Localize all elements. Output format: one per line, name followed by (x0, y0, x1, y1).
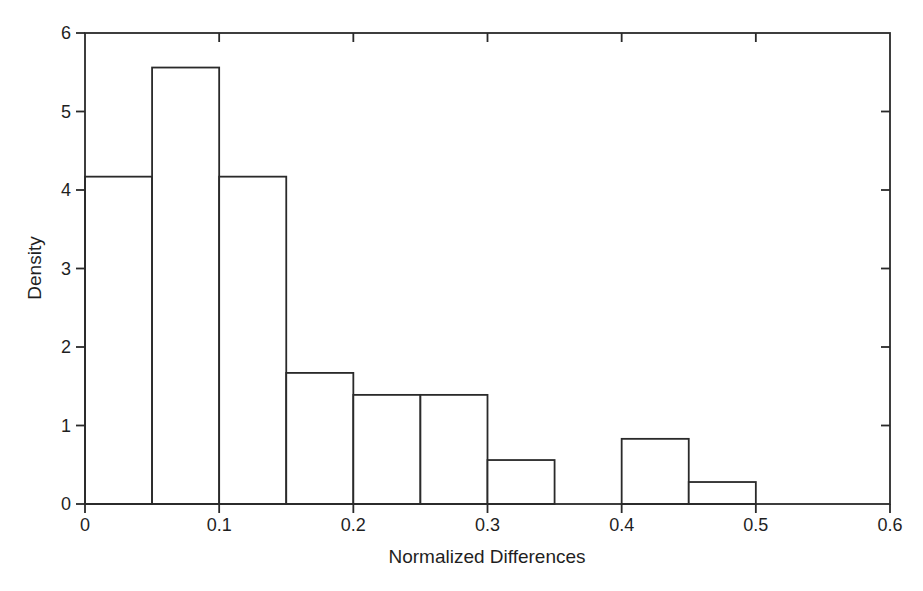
y-tick-label: 3 (61, 259, 71, 279)
histogram-bar (488, 460, 555, 504)
y-tick-label: 1 (61, 416, 71, 436)
histogram-bar (85, 177, 152, 504)
y-tick-label: 4 (61, 180, 71, 200)
histogram-bar (420, 395, 487, 504)
y-tick-label: 0 (61, 494, 71, 514)
histogram-chart: 00.10.20.30.40.50.60123456 Normalized Di… (0, 0, 923, 591)
y-tick-label: 6 (61, 23, 71, 43)
x-axis-label: Normalized Differences (388, 546, 585, 567)
histogram-bar (219, 177, 286, 504)
bars-layer (85, 68, 756, 504)
y-tick-label: 5 (61, 102, 71, 122)
y-axis-label: Density (24, 236, 45, 300)
histogram-bar (689, 482, 756, 504)
histogram-bar (286, 373, 353, 504)
histogram-bar (622, 439, 689, 504)
x-tick-label: 0.3 (475, 515, 500, 535)
x-tick-label: 0.6 (877, 515, 902, 535)
x-tick-label: 0.1 (207, 515, 232, 535)
histogram-bar (353, 395, 420, 504)
x-tick-label: 0.5 (743, 515, 768, 535)
x-tick-label: 0.4 (609, 515, 634, 535)
y-tick-label: 2 (61, 337, 71, 357)
x-tick-label: 0 (80, 515, 90, 535)
histogram-bar (152, 68, 219, 504)
figure: 00.10.20.30.40.50.60123456 Normalized Di… (0, 0, 923, 591)
x-tick-label: 0.2 (341, 515, 366, 535)
